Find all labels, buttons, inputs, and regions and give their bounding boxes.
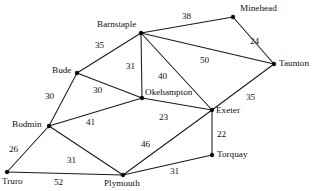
graph-edge — [7, 172, 123, 175]
node-label-taunton: Taunton — [279, 59, 309, 68]
graph-node-dot — [210, 153, 214, 157]
edge-weight-label: 31 — [126, 62, 135, 71]
edge-weight-label: 38 — [182, 12, 191, 21]
node-label-minehead: Minehead — [240, 4, 277, 13]
graph-node-dot — [5, 170, 9, 174]
network-graph-diagram: 3824503531403030412335224626315231 Mineh… — [0, 0, 314, 191]
edge-weight-label: 31 — [67, 156, 76, 165]
node-label-okehampton: Okehampton — [145, 88, 192, 97]
edge-weight-label: 35 — [95, 41, 104, 50]
edge-weight-label: 46 — [141, 140, 150, 149]
graph-node-dot — [272, 62, 276, 66]
graph-edge — [212, 64, 274, 110]
edge-weight-label: 41 — [86, 118, 95, 127]
graph-node-dot — [121, 173, 125, 177]
graph-edge — [77, 73, 142, 98]
edge-weight-label: 26 — [9, 145, 18, 154]
graph-node-dot — [140, 96, 144, 100]
graph-edge — [49, 126, 123, 175]
graph-node-dot — [231, 15, 235, 19]
edge-weight-label: 40 — [158, 72, 167, 81]
graph-node-dot — [47, 124, 51, 128]
graph-edge — [141, 33, 142, 98]
node-label-plymouth: Plymouth — [104, 179, 140, 188]
edge-weight-label: 52 — [54, 178, 63, 187]
edge-weight-label: 24 — [250, 37, 259, 46]
graph-edge — [142, 98, 212, 110]
node-label-exeter: Exeter — [216, 106, 240, 115]
graph-edge — [49, 98, 142, 126]
graph-node-dot — [210, 108, 214, 112]
edge-weight-label: 50 — [200, 56, 209, 65]
edge-weight-label: 22 — [217, 130, 226, 139]
edge-weight-label: 30 — [93, 86, 102, 95]
edge-weight-label: 30 — [45, 92, 54, 101]
edge-weight-label: 31 — [170, 167, 179, 176]
node-label-torquay: Torquay — [217, 150, 247, 159]
node-label-bodmin: Bodmin — [12, 120, 42, 129]
node-label-barnstaple: Barnstaple — [97, 20, 136, 29]
node-label-truro: Truro — [2, 177, 23, 186]
edge-weight-label: 35 — [246, 93, 255, 102]
graph-edge — [141, 33, 212, 110]
graph-node-dot — [75, 71, 79, 75]
edge-weight-label: 23 — [159, 113, 168, 122]
node-label-bude: Bude — [52, 66, 71, 75]
graph-node-dot — [139, 31, 143, 35]
